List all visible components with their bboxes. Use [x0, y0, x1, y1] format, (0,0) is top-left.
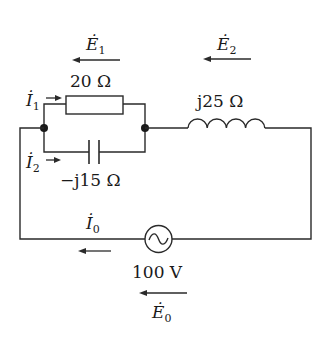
svg-text:İ1: İ1 [25, 90, 40, 113]
arrowhead-icon [203, 56, 211, 62]
arrowhead-icon [54, 157, 61, 163]
svg-text:İ2: İ2 [25, 152, 40, 175]
resistor-label: 20 Ω [70, 71, 111, 91]
inductor-symbol [188, 119, 265, 128]
svg-text:Ė2: Ė2 [216, 34, 236, 57]
circuit-diagram: Ė1 Ė2 20 Ω İ1 İ2 −j15 Ω j25 Ω [0, 0, 330, 337]
svg-text:Ė1: Ė1 [85, 34, 105, 57]
capacitor-label: −j15 Ω [60, 170, 121, 190]
voltage-e2: Ė2 [203, 34, 251, 62]
inductor-label: j25 Ω [195, 91, 243, 111]
current-i2: İ2 [25, 152, 61, 175]
voltage-e1: Ė1 [72, 34, 120, 63]
voltage-e0: Ė0 [139, 290, 187, 325]
current-i0: İ0 [78, 213, 111, 254]
arrowhead-icon [72, 57, 80, 63]
arrowhead-icon [139, 290, 147, 296]
svg-text:Ė0: Ė0 [151, 302, 171, 325]
svg-text:İ0: İ0 [85, 213, 100, 236]
source-label: 100 V [132, 262, 183, 282]
arrowhead-icon [78, 248, 86, 254]
resistor-symbol [66, 96, 123, 114]
arrowhead-icon [55, 95, 62, 101]
ac-source-symbol [145, 226, 172, 253]
